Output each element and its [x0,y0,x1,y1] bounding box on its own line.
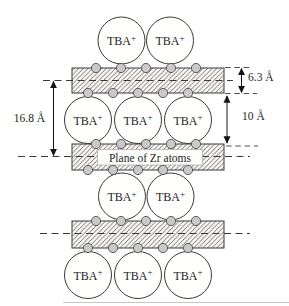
zr-plane-label: Plane of Zr atoms [109,152,192,164]
dimension-value: 6.3 Å [248,70,274,83]
atom-dot [158,88,167,97]
tba-cation: TBA+ [165,252,212,299]
dimension-value: 10 Å [242,109,265,122]
atom-dot [91,216,100,225]
atom-dot [183,165,192,174]
tba-cation: TBA+ [65,252,112,299]
atom-dot [116,63,125,72]
tba-cation: TBA+ [98,17,145,64]
atom-dot [91,139,100,148]
tba-row-2: TBA+ TBA+ TBA+ [65,97,212,144]
atom-dot [83,243,92,252]
atom-dot [158,243,167,252]
atom-dot [141,216,150,225]
dimension-gallery-height: 10 Å [227,96,265,143]
figure-canvas: TBA+ TBA+ TBA+ TBA+ TBA+ TBA+ TBA+ TBA+ … [0,0,289,306]
atom-dot [133,165,142,174]
atom-dot [108,88,117,97]
atom-dot [83,165,92,174]
atom-dot [158,165,167,174]
atom-dot [108,165,117,174]
atom-dot [83,88,92,97]
tba-cation: TBA+ [115,97,162,144]
atom-dot [191,63,200,72]
tba-row-3: TBA+ TBA+ [99,173,195,220]
atom-dot [166,139,175,148]
tba-cation: TBA+ [65,97,112,144]
tba-cation: TBA+ [147,173,194,220]
tba-cation: TBA+ [147,17,194,64]
dimension-layer-thickness: 6.3 Å [242,69,275,93]
tba-cation: TBA+ [165,97,212,144]
atom-dot [183,243,192,252]
tba-row-4: TBA+ TBA+ TBA+ [65,252,212,299]
dimension-repeat-distance: 16.8 Å [14,82,54,156]
tba-cation: TBA+ [99,173,146,220]
zr-plane-label-group: Plane of Zr atoms [98,150,203,166]
tba-row-1: TBA+ TBA+ [98,17,194,64]
tba-cation: TBA+ [115,252,162,299]
atom-dot [191,139,200,148]
atom-dot [108,243,117,252]
dimension-value: 16.8 Å [14,111,46,124]
atom-dot [141,139,150,148]
atom-dot [91,63,100,72]
atom-dot [133,243,142,252]
atom-dot [116,139,125,148]
atom-dot [183,88,192,97]
atom-dot [191,216,200,225]
atom-dot [133,88,142,97]
atom-dot [166,63,175,72]
atom-dot [116,216,125,225]
atom-dot [141,63,150,72]
atom-dot [166,216,175,225]
layered-zr-phosphate-diagram: TBA+ TBA+ TBA+ TBA+ TBA+ TBA+ TBA+ TBA+ … [0,0,289,306]
